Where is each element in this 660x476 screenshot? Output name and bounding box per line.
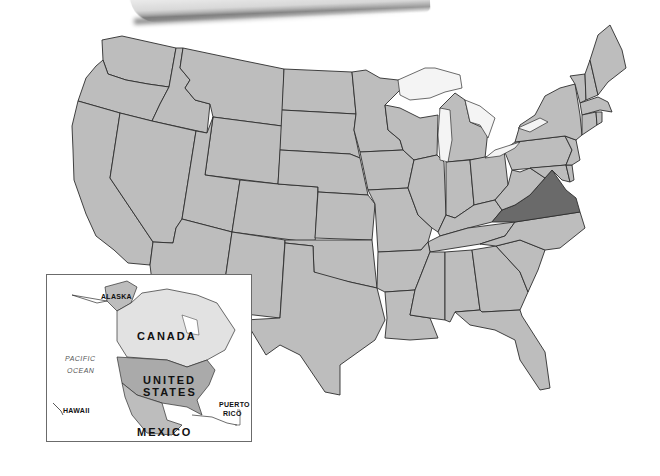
- label-united-states-line1: UNITED: [143, 375, 196, 386]
- label-united-states-line2: STATES: [143, 387, 197, 398]
- state-kansas[interactable]: [315, 192, 375, 240]
- label-mexico: MEXICO: [137, 427, 192, 438]
- state-north-dakota[interactable]: [282, 69, 356, 114]
- state-new-york[interactable]: [515, 84, 582, 142]
- state-rhode-island[interactable]: [596, 112, 602, 125]
- label-puerto-rico-line2: RICO: [223, 410, 242, 417]
- label-pacific-ocean-line2: OCEAN: [67, 367, 94, 374]
- label-alaska: ALASKA: [101, 293, 132, 300]
- state-wyoming[interactable]: [205, 117, 282, 184]
- state-maine[interactable]: [590, 25, 626, 95]
- label-hawaii: HAWAII: [63, 407, 90, 414]
- inset-hawaii-islands: [53, 403, 63, 415]
- north-america-inset-map: ALASKA CANADA PACIFIC OCEAN UNITED STATE…: [46, 274, 252, 442]
- inset-canada: [117, 289, 235, 367]
- label-pacific-ocean-line1: PACIFIC: [65, 355, 96, 362]
- state-iowa[interactable]: [360, 150, 414, 190]
- state-connecticut[interactable]: [582, 112, 597, 135]
- state-florida[interactable]: [455, 310, 550, 390]
- label-canada: CANADA: [137, 331, 197, 342]
- label-puerto-rico-line1: PUERTO: [219, 401, 250, 408]
